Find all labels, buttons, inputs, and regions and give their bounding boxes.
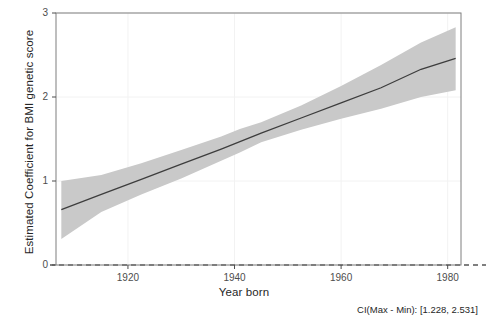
x-tick-label: 1960	[319, 272, 363, 283]
ci-range-annotation: CI(Max - Min): [1.228, 2.531]	[357, 304, 478, 315]
x-tick-label: 1920	[106, 272, 150, 283]
y-axis-title: Estimated Coefficient for BMI genetic sc…	[23, 17, 35, 267]
x-tick-label: 1940	[213, 272, 257, 283]
x-axis-title: Year born	[0, 286, 488, 298]
x-tick-label: 1980	[426, 272, 470, 283]
chart-figure: 0123 1920194019601980 Year born Estimate…	[0, 0, 488, 330]
